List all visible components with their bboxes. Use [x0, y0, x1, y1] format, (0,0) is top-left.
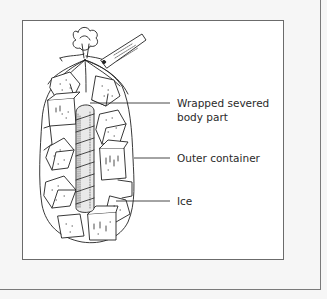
ice-bag-illustration — [0, 0, 327, 299]
label-wrapped-body-part: Wrapped severed body part — [177, 96, 269, 124]
label-ice: Ice — [177, 194, 192, 208]
label-wrapped-line-1: Wrapped severed — [177, 96, 269, 110]
label-outer-container: Outer container — [177, 151, 260, 165]
label-tag-icon — [101, 34, 146, 68]
wrapped-body-part — [76, 105, 94, 213]
label-wrapped-line-2: body part — [177, 110, 269, 124]
bag-knot-icon — [60, 27, 104, 61]
